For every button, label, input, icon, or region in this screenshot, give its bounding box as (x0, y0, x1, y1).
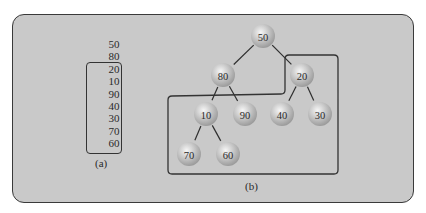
tree-edge (234, 45, 254, 64)
tree-node: 30 (308, 102, 332, 126)
binary-tree: 508020109040307060 (0, 0, 426, 213)
tree-edge (229, 86, 237, 101)
tree-node: 60 (216, 142, 240, 166)
node-value: 60 (223, 150, 234, 161)
node-value: 40 (277, 110, 288, 121)
tree-edge (212, 125, 221, 140)
node-value: 80 (218, 71, 229, 82)
tree-node: 50 (251, 24, 275, 48)
node-value: 70 (184, 150, 195, 161)
tree-node: 20 (290, 63, 314, 87)
tree-edges (195, 45, 314, 141)
tree-node: 90 (233, 102, 257, 126)
tree-node: 40 (270, 102, 294, 126)
node-value: 20 (297, 71, 308, 82)
tree-node: 70 (177, 142, 201, 166)
tree-edge (195, 126, 201, 140)
node-value: 30 (315, 110, 326, 121)
caption-b: (b) (245, 180, 258, 192)
tree-node: 10 (194, 102, 218, 126)
node-value: 10 (201, 110, 212, 121)
tree-node: 80 (211, 63, 235, 87)
node-value: 50 (258, 32, 269, 43)
tree-edge (212, 87, 218, 100)
tree-edge (307, 87, 313, 101)
node-value: 90 (240, 110, 251, 121)
tree-edge (289, 87, 296, 101)
